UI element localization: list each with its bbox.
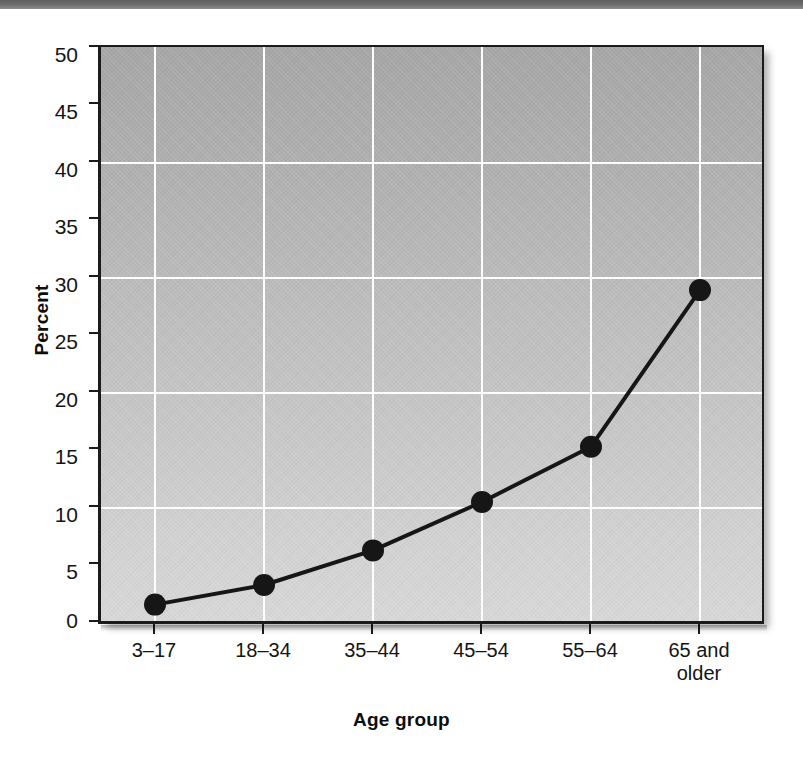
data-point-3-17 [144,594,166,616]
data-series-percent [100,47,762,623]
x-tick-label-65-and-older-line1: 65 and [629,639,769,662]
y-tick-10 [89,505,98,507]
x-tick-label-65-and-older: 65 and older [629,639,769,685]
y-tick-label-25: 25 [18,330,78,354]
y-tick-label-10: 10 [18,503,78,527]
top-decorative-band [0,0,803,9]
y-tick-0 [89,620,98,622]
data-point-55-64 [580,436,602,458]
data-point-18-34 [253,574,275,596]
data-point-35-44 [362,539,384,561]
y-tick-label-5: 5 [18,560,78,584]
x-axis-line [98,621,764,624]
y-tick-25 [89,332,98,334]
series-markers [144,279,711,615]
y-tick-20 [89,390,98,392]
plot-area [100,45,764,623]
y-tick-label-50: 50 [18,43,78,67]
y-tick-label-45: 45 [18,100,78,124]
y-tick-label-30: 30 [18,273,78,297]
y-tick-40 [89,160,98,162]
y-axis-line [98,45,101,623]
x-axis-shadow [101,625,767,631]
y-tick-label-35: 35 [18,215,78,239]
y-tick-label-15: 15 [18,445,78,469]
y-tick-30 [89,275,98,277]
data-point-45-54 [471,491,493,513]
y-tick-label-20: 20 [18,388,78,412]
x-axis-title: Age group [0,709,803,731]
y-tick-35 [89,217,98,219]
y-tick-15 [89,447,98,449]
y-tick-5 [89,562,98,564]
x-tick-label-65-and-older-line2: older [629,662,769,685]
y-tick-label-0: 0 [18,609,78,633]
y-tick-label-40: 40 [18,158,78,182]
y-tick-45 [89,102,98,104]
chart-figure: Percent 50 45 40 35 30 25 20 15 10 5 0 [0,9,803,757]
data-point-65-and-older [689,279,711,301]
y-tick-50 [89,45,98,47]
series-line [155,290,700,604]
